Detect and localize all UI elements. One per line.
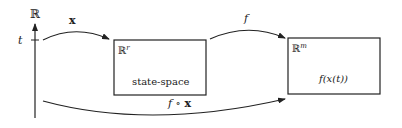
f-arrow-label: f: [244, 13, 248, 24]
axis-label: ℝ: [30, 8, 40, 20]
state-space-symbol: ℝr: [118, 45, 130, 56]
state-space-dim: r: [126, 44, 129, 52]
state-space-caption: state-space: [132, 77, 189, 87]
t-label: t: [18, 35, 22, 46]
f-arrow: [210, 30, 285, 39]
output-space-dim: m: [300, 42, 307, 50]
output-caption: f(x(t)): [319, 74, 348, 84]
x-arrow-label: x: [69, 15, 76, 26]
composition-arrow: [43, 99, 285, 115]
output-space-symbol: ℝm: [292, 43, 307, 54]
composition-x: x: [184, 97, 191, 110]
x-arrow: [43, 32, 109, 40]
composition-label: f ∘ x: [168, 98, 191, 109]
diagram-canvas: [0, 0, 402, 128]
composition-op: ∘: [172, 97, 184, 110]
